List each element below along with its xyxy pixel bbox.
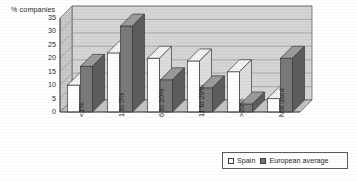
- y-tick-label: 25: [34, 41, 56, 48]
- x-tick-label: <1%: [78, 102, 85, 117]
- legend: Spain European average: [222, 152, 348, 169]
- y-tick-label: 15: [34, 68, 56, 75]
- legend-item-spain: Spain: [228, 156, 255, 165]
- legend-label-spain: Spain: [237, 156, 255, 165]
- y-tick-label: 35: [34, 14, 56, 21]
- y-tick-label: 5: [34, 95, 56, 102]
- legend-swatch-european-average: [260, 158, 266, 164]
- legend-item-european-average: European average: [260, 156, 328, 165]
- x-tick-label: 1 to 5%: [118, 93, 125, 117]
- y-tick-label: 10: [34, 81, 56, 88]
- y-tick-label: 0: [34, 108, 56, 115]
- x-tick-label: 11 to 20%: [198, 85, 205, 117]
- x-tick-label: Not used: [278, 88, 285, 117]
- legend-label-european-average: European average: [269, 156, 328, 165]
- y-tick-label: 30: [34, 27, 56, 34]
- bar-chart: % companies 05101520253035 <1%1 to 5%6 t…: [0, 0, 357, 181]
- x-tick-label: 6 to 10%: [158, 89, 165, 117]
- bar-side-face: [293, 46, 305, 112]
- x-tick-label: >20%: [238, 98, 245, 117]
- bar-side-face: [133, 14, 145, 112]
- legend-swatch-spain: [228, 158, 234, 164]
- y-tick-label: 20: [34, 54, 56, 61]
